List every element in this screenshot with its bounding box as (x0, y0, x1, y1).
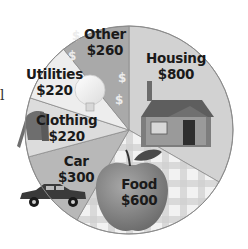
label-food-name: Food (121, 176, 157, 192)
label-clothing-name: Clothing (36, 112, 97, 128)
label-clothing-value: $220 (36, 128, 97, 144)
label-housing-name: Housing (146, 50, 206, 66)
label-other: Other $260 (84, 26, 126, 58)
label-housing: Housing $800 (146, 50, 206, 82)
svg-text:$: $ (115, 93, 123, 107)
label-food: Food $600 (121, 176, 157, 208)
label-utilities-value: $220 (26, 82, 83, 98)
svg-text:$: $ (118, 71, 126, 85)
label-utilities: Utilities $220 (26, 66, 83, 98)
label-other-value: $260 (84, 42, 126, 58)
label-food-value: $600 (121, 192, 157, 208)
label-clothing: Clothing $220 (36, 112, 97, 144)
label-car: Car $300 (58, 153, 94, 185)
label-utilities-name: Utilities (26, 66, 83, 82)
label-car-name: Car (58, 153, 94, 169)
label-car-value: $300 (58, 169, 94, 185)
stray-text: l (0, 87, 4, 103)
label-other-name: Other (84, 26, 126, 42)
label-housing-value: $800 (146, 66, 206, 82)
svg-text:$: $ (68, 49, 76, 63)
